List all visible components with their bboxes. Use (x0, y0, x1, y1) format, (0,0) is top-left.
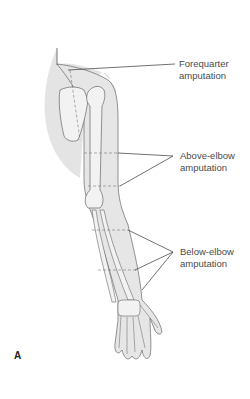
label-above-elbow-amputation: Above-elbow amputation (180, 150, 235, 174)
label-forequarter-amputation: Forequarter amputation (179, 58, 229, 82)
label-line2: amputation (180, 258, 234, 270)
label-line2: amputation (179, 70, 229, 82)
label-below-elbow-amputation: Below-elbow amputation (180, 246, 234, 270)
label-line2: amputation (180, 162, 235, 174)
label-line1: Above-elbow (180, 150, 235, 162)
label-line1: Forequarter (179, 58, 229, 70)
label-line1: Below-elbow (180, 246, 234, 258)
panel-letter: A (14, 350, 21, 361)
carpal-bones (118, 300, 140, 316)
